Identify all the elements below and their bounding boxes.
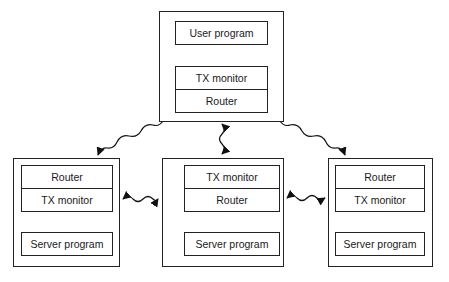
top-tx-monitor: TX monitor <box>175 66 268 90</box>
top-router: Router <box>175 90 268 113</box>
right-server-program: Server program <box>335 232 425 256</box>
wavy-arrow-top-left <box>98 121 163 155</box>
left-router: Router <box>21 165 113 189</box>
right-tx-monitor: TX monitor <box>335 189 425 212</box>
wavy-arrow-top-right <box>280 121 345 155</box>
wavy-arrow-left-middle <box>123 197 158 202</box>
top-user-program: User program <box>175 21 268 45</box>
middle-server-program: Server program <box>184 232 280 256</box>
left-server-program: Server program <box>21 232 113 256</box>
left-tx-monitor: TX monitor <box>21 189 113 212</box>
right-router: Router <box>335 165 425 189</box>
middle-router: Router <box>184 189 280 212</box>
wavy-arrow-top-middle <box>220 124 225 154</box>
middle-tx-monitor: TX monitor <box>184 165 280 189</box>
wavy-arrow-middle-right <box>287 196 325 201</box>
